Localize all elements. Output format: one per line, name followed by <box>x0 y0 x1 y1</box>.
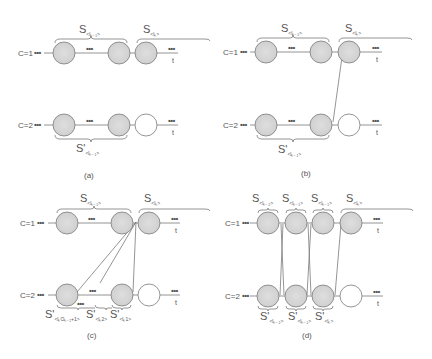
t-label: t <box>377 227 379 234</box>
ellipsis: ••• <box>171 286 179 295</box>
ellipsis: ••• <box>77 299 85 308</box>
caption-a: (a) <box>84 171 94 180</box>
segment-label: S<lₖ> <box>346 192 362 206</box>
ellipsis: ••• <box>288 116 296 125</box>
segment-label: S'<lₖOₖ₋₁+1> <box>45 308 80 322</box>
caption-d: (d) <box>302 331 312 340</box>
ellipsis: ••• <box>372 116 380 125</box>
node-c-top-1 <box>56 212 78 234</box>
ellipsis: ••• <box>372 43 380 52</box>
panel-a-nodes <box>53 42 157 136</box>
ellipsis: ••• <box>37 290 45 299</box>
segment-label: S<lₖ₋₁> <box>79 23 100 37</box>
segment-label: S'<lₖ₋₁> <box>76 142 99 156</box>
segment-label: S<lₖ₋₁> <box>282 192 303 206</box>
node-c-top-3 <box>138 212 160 234</box>
node-d-top-1 <box>257 212 279 234</box>
caption-b: (b) <box>301 169 311 178</box>
ellipsis: ••• <box>86 44 94 53</box>
node-c-bot-3-empty <box>138 284 160 306</box>
row-label-c1: C=1 <box>20 219 35 228</box>
segment-label: S<lₖ₋₁> <box>281 22 302 36</box>
node-b-bot-1 <box>255 114 277 136</box>
node-a-top-3 <box>135 42 157 64</box>
node-a-bot-1 <box>53 114 75 136</box>
panel-c-nodes <box>56 212 160 306</box>
node-d-bot-1 <box>257 285 279 307</box>
ellipsis: ••• <box>240 120 248 129</box>
row-label-c1: C=1 <box>223 48 238 57</box>
segment-label: S<lₖ> <box>144 192 160 206</box>
node-d-top-2 <box>285 212 307 234</box>
t-label: t <box>175 227 177 234</box>
segment-label: S<lₖ₋₁> <box>80 192 101 206</box>
ellipsis: ••• <box>242 291 250 300</box>
node-d-bot-4-empty <box>340 285 362 307</box>
node-d-bot-2 <box>285 285 307 307</box>
row-label-c2: C=2 <box>223 121 238 130</box>
segment-label: S<lₖ> <box>143 23 159 37</box>
node-a-top-1 <box>53 42 75 64</box>
panel-b-nodes <box>255 41 360 136</box>
ellipsis: ••• <box>88 214 96 223</box>
node-a-bot-2 <box>108 114 130 136</box>
t-label: t <box>377 300 379 307</box>
ellipsis: ••• <box>288 43 296 52</box>
t-label: t <box>376 129 378 136</box>
t-label: t <box>175 299 177 306</box>
segment-label: S'<lₖ1> <box>110 308 131 322</box>
node-d-bot-3 <box>312 285 334 307</box>
row-label-c1: C=1 <box>225 219 240 228</box>
segment-label: S<lₖ> <box>345 22 361 36</box>
node-c-bot-2 <box>111 284 133 306</box>
segment-label: S'<lₖ2> <box>86 308 107 322</box>
ellipsis: ••• <box>86 116 94 125</box>
row-label-c2: C=2 <box>18 121 33 130</box>
node-b-bot-2 <box>310 114 332 136</box>
ellipsis: ••• <box>168 44 176 53</box>
ellipsis: ••• <box>168 116 176 125</box>
ellipsis: ••• <box>34 48 42 57</box>
ellipsis: ••• <box>34 120 42 129</box>
segment-label: S'<lₖ₋₂> <box>260 310 283 324</box>
ellipsis: ••• <box>242 218 250 227</box>
node-b-bot-3-empty <box>338 114 360 136</box>
segment-label: S'<lₖ₋₁> <box>278 143 301 157</box>
segment-label: S'<lₖ₋₁> <box>288 310 311 324</box>
ellipsis: ••• <box>373 214 381 223</box>
ellipsis: ••• <box>37 218 45 227</box>
caption-c: (c) <box>87 331 97 340</box>
segment-label: S'<lₖ> <box>315 310 333 324</box>
node-c-bot-1 <box>56 284 78 306</box>
node-c-top-2 <box>111 212 133 234</box>
ellipsis: ••• <box>373 287 381 296</box>
ellipsis: ••• <box>171 214 179 223</box>
ellipsis: ••• <box>240 47 248 56</box>
t-label: t <box>376 56 378 63</box>
node-a-top-2 <box>108 42 130 64</box>
node-d-top-3 <box>312 212 334 234</box>
t-label: t <box>172 57 174 64</box>
node-b-top-3 <box>338 41 360 63</box>
row-label-c1: C=1 <box>18 49 33 58</box>
node-b-top-1 <box>255 41 277 63</box>
t-label: t <box>172 129 174 136</box>
row-label-c2: C=2 <box>225 292 240 301</box>
segment-label: S<lₖ₋₂> <box>252 192 273 206</box>
ellipsis: ••• <box>89 286 97 295</box>
node-b-top-2 <box>310 41 332 63</box>
node-d-top-4 <box>340 212 362 234</box>
node-a-bot-3-empty <box>135 114 157 136</box>
row-label-c2: C=2 <box>20 291 35 300</box>
segment-label: S<lₖ₋₁> <box>311 192 332 206</box>
hmm-alignment-diagram: C=1 ••• ••• ••• t C=2 ••• ••• ••• t S<lₖ… <box>0 0 432 359</box>
